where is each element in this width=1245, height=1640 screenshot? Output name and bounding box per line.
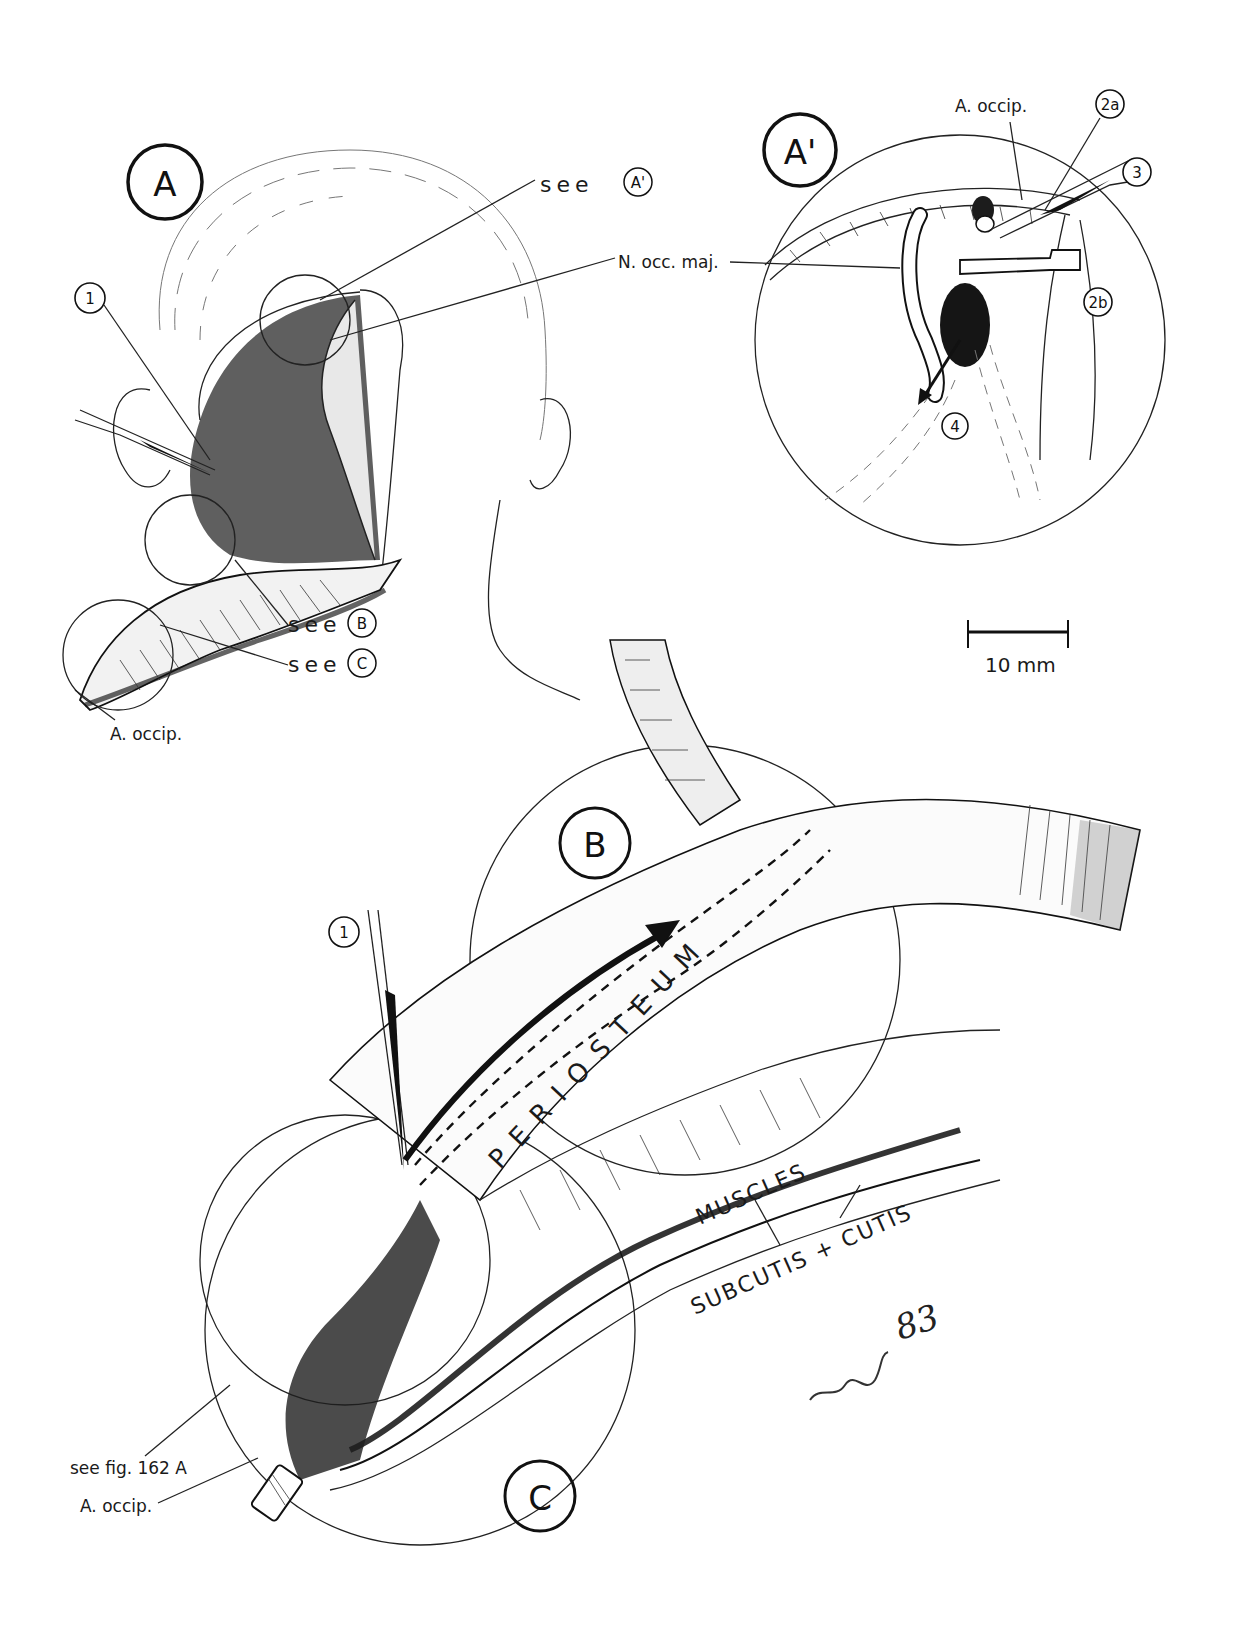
label-see-c: see C	[288, 649, 376, 677]
svg-text:1: 1	[339, 924, 349, 942]
marker-1-top: 1	[75, 283, 105, 313]
svg-text:B: B	[583, 825, 606, 865]
panel-a-prime-badge: A'	[764, 114, 836, 186]
svg-text:A': A'	[784, 132, 817, 172]
svg-text:2a: 2a	[1101, 96, 1120, 114]
svg-text:C: C	[528, 1478, 552, 1518]
neck-line	[488, 500, 580, 700]
artery-clip	[972, 196, 994, 232]
label-a-occip-panel-a: A. occip.	[110, 724, 182, 744]
panel-b-badge: B	[560, 808, 630, 878]
svg-text:2b: 2b	[1088, 294, 1107, 312]
scale-bar-label: 10 mm	[985, 653, 1056, 677]
surgical-illustration: A 1 see A' N. occ. maj. see B s	[0, 0, 1245, 1640]
svg-text:B: B	[357, 615, 367, 633]
panel-c-badge: C	[505, 1461, 575, 1531]
svg-text:see: see	[540, 172, 594, 197]
svg-text:4: 4	[950, 418, 960, 436]
marker-3: 3	[1123, 158, 1151, 186]
retractor-2b	[960, 250, 1080, 274]
label-muscles: MUSCLES	[692, 1159, 810, 1230]
marker-2a: 2a	[1096, 90, 1124, 118]
panel-a-prime: A' A. occip. 2a 3 2b 4	[755, 90, 1165, 545]
label-see-b: see B	[288, 609, 376, 637]
panel-a-badge: A	[128, 145, 202, 219]
svg-text:A': A'	[631, 174, 645, 192]
label-see-fig-162a: see fig. 162 A	[70, 1458, 187, 1478]
svg-text:A: A	[153, 164, 176, 204]
flap-tip	[286, 1200, 440, 1480]
scale-bar: 10 mm	[968, 620, 1068, 677]
label-a-occip-panel-a-prime: A. occip.	[955, 96, 1027, 116]
label-a-occip-bottom: A. occip.	[80, 1496, 152, 1516]
svg-text:C: C	[357, 655, 367, 673]
artist-signature: 83	[810, 1296, 944, 1400]
periosteum-band	[330, 800, 1140, 1200]
label-n-occ-maj: N. occ. maj.	[618, 252, 719, 272]
nerve	[909, 215, 937, 395]
svg-text:83: 83	[890, 1296, 944, 1347]
svg-text:3: 3	[1132, 164, 1142, 182]
marker-1-bottom: 1	[329, 917, 359, 947]
panel-a: A 1 see A' N. occ. maj. see B s	[63, 145, 900, 744]
panel-bc: B C 1 PERIOSTEUM MUSCLES SUBCUTIS + CUTI…	[70, 640, 1140, 1545]
scalpel-3	[1040, 180, 1110, 215]
svg-text:see: see	[288, 612, 342, 637]
foramen	[940, 283, 990, 367]
marker-4: 4	[942, 413, 968, 439]
svg-text:1: 1	[85, 290, 95, 308]
label-see-a-prime: see A'	[540, 168, 652, 197]
marker-2b: 2b	[1084, 288, 1112, 316]
svg-text:see: see	[288, 652, 342, 677]
right-ear	[530, 399, 570, 489]
